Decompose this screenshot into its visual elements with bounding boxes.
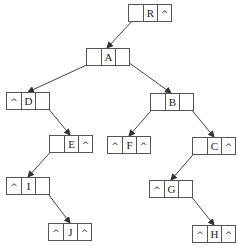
tree-node-c: C ^ xyxy=(192,137,236,155)
node-label: E xyxy=(64,136,78,152)
tree-node-r: R ^ xyxy=(128,4,172,22)
left-pointer-cell xyxy=(50,136,64,152)
tree-node-g: ^ G xyxy=(149,180,193,198)
node-label: H xyxy=(207,226,221,242)
node-label: I xyxy=(21,178,35,194)
tree-node-j: ^ J ^ xyxy=(48,223,92,241)
right-pointer-cell: ^ xyxy=(221,226,235,242)
left-pointer-cell xyxy=(193,138,207,154)
left-pointer-cell: ^ xyxy=(108,137,122,153)
left-pointer-cell xyxy=(129,5,143,21)
right-pointer-cell: ^ xyxy=(77,224,91,240)
left-pointer-cell xyxy=(151,94,165,110)
left-pointer-cell: ^ xyxy=(150,181,164,197)
node-label: F xyxy=(122,137,136,153)
node-label: R xyxy=(143,5,157,21)
right-pointer-cell: ^ xyxy=(157,5,171,21)
right-pointer-cell xyxy=(115,49,129,65)
tree-node-f: ^ F ^ xyxy=(107,136,151,154)
left-pointer-cell xyxy=(87,49,101,65)
node-label: C xyxy=(207,138,221,154)
right-pointer-cell: ^ xyxy=(136,137,150,153)
tree-node-i: ^ I xyxy=(6,177,50,195)
left-pointer-cell: ^ xyxy=(7,93,21,109)
edge-r-a xyxy=(107,18,135,48)
tree-node-e: E ^ xyxy=(49,135,93,153)
edge-a-d xyxy=(28,62,93,92)
left-pointer-cell: ^ xyxy=(7,178,21,194)
tree-node-b: B xyxy=(150,93,194,111)
node-label: D xyxy=(21,93,35,109)
node-label: G xyxy=(164,181,178,197)
tree-node-d: ^ D xyxy=(6,92,50,110)
right-pointer-cell: ^ xyxy=(78,136,92,152)
left-pointer-cell: ^ xyxy=(49,224,63,240)
tree-node-h: ^ H ^ xyxy=(192,225,236,243)
tree-node-a: A xyxy=(86,48,130,66)
right-pointer-cell xyxy=(178,181,192,197)
tree-edges xyxy=(0,0,238,248)
right-pointer-cell xyxy=(35,93,49,109)
node-label: J xyxy=(63,224,77,240)
binary-tree-diagram: R ^ A ^ D B E ^ ^ F ^ C ^ ^ I ^ G ^ J ^ … xyxy=(0,0,238,248)
node-label: A xyxy=(101,49,115,65)
node-label: B xyxy=(165,94,179,110)
right-pointer-cell xyxy=(35,178,49,194)
left-pointer-cell: ^ xyxy=(193,226,207,242)
right-pointer-cell xyxy=(179,94,193,110)
right-pointer-cell: ^ xyxy=(221,138,235,154)
